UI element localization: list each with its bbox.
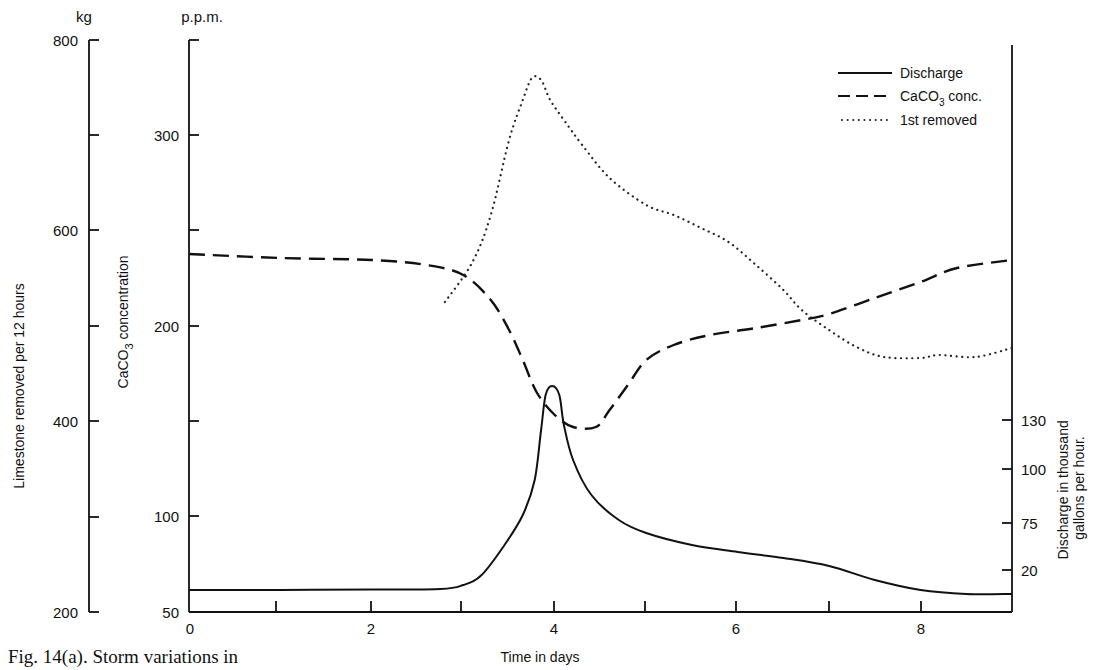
kg-axis-label: Limestone removed per 12 hours — [11, 283, 27, 488]
legend-removed: 1st removed — [900, 112, 977, 128]
discharge-tick-100: 100 — [1021, 461, 1046, 478]
x-axis — [189, 601, 1012, 612]
discharge-line — [189, 386, 1012, 594]
ppm-unit-label: p.p.m. — [181, 8, 223, 25]
legend: Discharge CaCO3 conc. 1st removed — [838, 65, 982, 128]
x-tick-4: 4 — [550, 620, 558, 637]
kg-unit-label: kg — [76, 8, 92, 25]
kg-tick-600: 600 — [53, 222, 78, 239]
caco3-line — [189, 254, 1012, 429]
x-axis-label: Time in days — [501, 649, 580, 665]
x-tick-8: 8 — [917, 620, 925, 637]
kg-tick-200: 200 — [53, 604, 78, 621]
legend-discharge: Discharge — [900, 65, 963, 81]
ppm-axis — [189, 40, 199, 612]
ppm-tick-50: 50 — [162, 604, 179, 621]
ppm-tick-100: 100 — [154, 508, 179, 525]
x-tick-6: 6 — [732, 620, 740, 637]
figure-caption: Fig. 14(a). Storm variations in — [8, 646, 238, 668]
ppm-tick-300: 300 — [154, 127, 179, 144]
x-tick-0: 0 — [186, 620, 194, 637]
chart: kg 800 600 400 200 Limestone removed per… — [0, 0, 1093, 670]
ppm-tick-200: 200 — [154, 318, 179, 335]
legend-caco3: CaCO3 conc. — [900, 88, 982, 108]
discharge-axis-label: Discharge in thousand gallons per hour. — [1055, 416, 1087, 559]
discharge-tick-20: 20 — [1021, 562, 1038, 579]
kg-tick-400: 400 — [53, 413, 78, 430]
ppm-axis-label: CaCO3 concentration — [115, 256, 135, 389]
kg-tick-800: 800 — [53, 32, 78, 49]
discharge-tick-75: 75 — [1021, 515, 1038, 532]
discharge-axis — [1002, 45, 1012, 612]
discharge-tick-130: 130 — [1021, 412, 1046, 429]
x-tick-2: 2 — [367, 620, 375, 637]
kg-axis — [89, 40, 99, 612]
